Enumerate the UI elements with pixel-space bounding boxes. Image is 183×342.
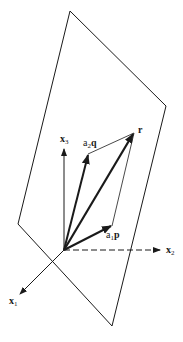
label-r: r — [138, 124, 143, 135]
plane-outline — [18, 11, 166, 326]
label-a1p: a1p — [106, 229, 120, 242]
label-x1: x1 — [9, 295, 18, 308]
label-x3: x3 — [60, 133, 69, 146]
axis-x1 — [20, 250, 64, 294]
vector-a2q — [64, 155, 88, 250]
label-a2q: a2q — [83, 137, 97, 150]
label-x2: x2 — [166, 244, 175, 257]
parallelogram-edge-p — [112, 133, 134, 226]
diagram-canvas: r a2q a1p x3 x2 x1 — [0, 0, 183, 342]
